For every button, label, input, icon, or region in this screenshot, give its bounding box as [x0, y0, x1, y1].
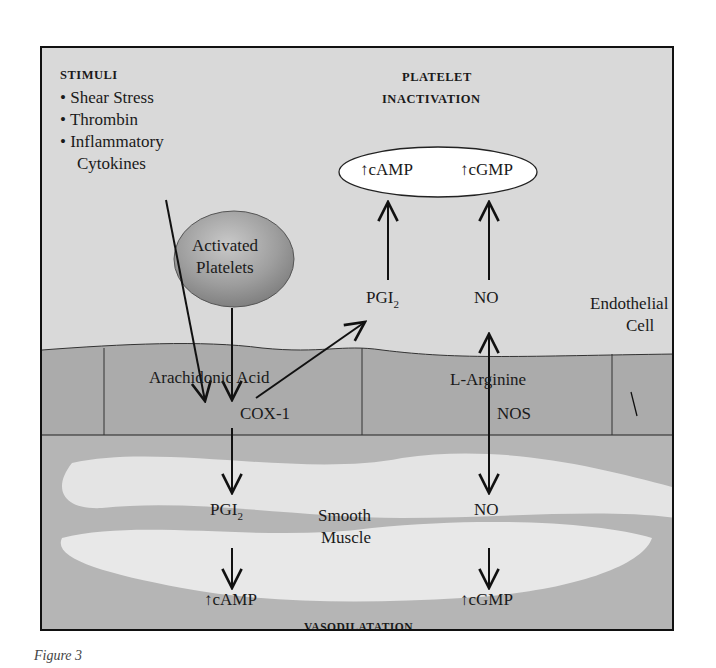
l-arginine-label: L-Arginine: [450, 370, 526, 390]
pgi2-base: PGI: [366, 288, 393, 307]
activated-platelets-line1: Activated: [192, 236, 258, 256]
pgi2-subscript: 2: [393, 298, 399, 310]
platelet-inactivation-heading-line1: PLATELET: [402, 70, 472, 85]
stimulus-item: • Thrombin: [60, 110, 138, 130]
ellipse-camp: ↑cAMP: [360, 160, 413, 180]
lower-cgmp: ↑cGMP: [460, 590, 513, 610]
endothelial-cell-label-line2: Cell: [626, 316, 654, 336]
lower-pgi2: PGI2: [210, 500, 243, 520]
upper-pgi2: PGI2: [366, 288, 399, 308]
diagram-frame: STIMULI • Shear Stress • Thrombin • Infl…: [40, 46, 674, 631]
stimulus-label: Thrombin: [70, 110, 138, 129]
arachidonic-acid-label: Arachidonic Acid: [149, 368, 269, 388]
activated-platelets-line2: Platelets: [196, 258, 254, 278]
stimulus-label: Inflammatory: [70, 132, 163, 151]
ellipse-cgmp: ↑cGMP: [460, 160, 513, 180]
upper-no: NO: [474, 288, 499, 308]
lower-camp: ↑cAMP: [204, 590, 257, 610]
nos-label: NOS: [497, 404, 531, 424]
smooth-muscle-label-line1: Smooth: [318, 506, 371, 526]
stimulus-item: • Inflammatory: [60, 132, 164, 152]
vasodilatation-label: VASODILATATION: [304, 621, 413, 631]
cox1-label: COX-1: [240, 404, 290, 424]
stimulus-item-continued: Cytokines: [77, 154, 146, 174]
pgi2-subscript: 2: [237, 510, 243, 522]
diagram-figure: STIMULI • Shear Stress • Thrombin • Infl…: [0, 0, 716, 668]
figure-caption: Figure 3: [34, 648, 82, 664]
platelet-inactivation-heading-line2: INACTIVATION: [382, 92, 481, 107]
stimulus-label: Shear Stress: [70, 88, 154, 107]
endothelial-cell-label-line1: Endothelial: [590, 294, 668, 314]
pgi2-base: PGI: [210, 500, 237, 519]
stimuli-heading: STIMULI: [60, 68, 118, 83]
lower-no: NO: [474, 500, 499, 520]
smooth-muscle-label-line2: Muscle: [321, 528, 371, 548]
stimulus-item: • Shear Stress: [60, 88, 154, 108]
